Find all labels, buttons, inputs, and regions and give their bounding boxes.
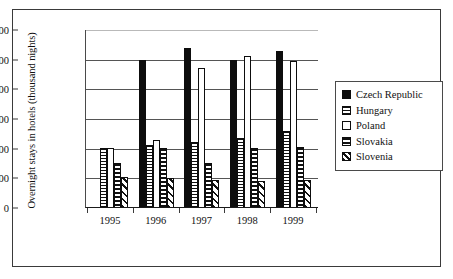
bar-group [179,30,225,207]
solid-black-swatch [342,90,351,99]
bar-group [225,30,271,207]
bar [198,68,205,207]
bar [244,56,251,207]
bar [212,180,219,207]
x-axis-label: 1995 [87,215,133,226]
y-axis-tickmark [13,208,18,209]
bar [290,61,297,207]
bar [251,148,258,207]
legend-item: Slovenia [342,149,437,165]
y-axis-tick-label: 12,000 [0,25,13,36]
bar-group [134,30,180,207]
x-axis-label: 1997 [179,215,225,226]
y-axis-tick: 12,000 [0,25,13,36]
bar [107,148,114,207]
bar [121,177,128,207]
bar [283,131,290,207]
bar [160,148,167,207]
legend-item-label: Slovakia [356,136,393,147]
bar-group [270,30,316,207]
y-axis-tick: 6000 [0,114,13,125]
legend-item-label: Poland [356,120,385,131]
bar [258,181,265,207]
legend-item: Czech Republic [342,87,437,103]
bar [167,178,174,207]
horizontal-lines-swatch [342,137,351,146]
bar [114,163,121,207]
bar [139,60,146,207]
bar [297,147,304,207]
x-axis-label: 1999 [270,215,316,226]
y-axis-tick-label: 10,000 [0,54,13,65]
bar [184,48,191,207]
y-axis-tick-label: 2000 [0,173,13,184]
y-axis-tickmark [13,30,18,31]
chart-legend: Czech RepublicHungaryPolandSlovakiaSlove… [335,81,443,171]
y-axis-tick: 4000 [0,143,13,154]
x-axis-label: 1998 [224,215,270,226]
x-axis-tickmark [133,208,134,213]
plot-area [85,30,318,208]
y-axis-tick-label: 0 [4,203,13,214]
x-axis-tickmark [179,208,180,213]
diagonal-lines-swatch [342,152,351,161]
legend-item-label: Slovenia [356,151,393,162]
legend-item-label: Hungary [356,105,393,116]
y-axis-tick: 8000 [0,84,13,95]
bar [276,51,283,207]
y-axis-tick: 0 [4,203,13,214]
bar-groups [86,30,318,207]
y-axis-tickmark [13,148,18,149]
bar [205,163,212,207]
bar-group [88,30,134,207]
legend-item: Hungary [342,103,437,119]
x-axis-tickmark [87,208,88,213]
y-axis-tick: 2000 [0,173,13,184]
bar [146,145,153,207]
x-axis-labels: 19951996199719981999 [85,215,318,226]
legend-item: Slovakia [342,134,437,150]
bar [304,180,311,207]
bar [230,60,237,207]
x-axis-label: 1996 [133,215,179,226]
x-axis-tickmark [224,208,225,213]
chart-frame: Overnight stays in hotels (thousand nigh… [12,9,441,267]
legend-item-label: Czech Republic [356,89,423,100]
y-axis-tick-labels: 0200040006000800010,00012,000 [13,10,85,209]
y-axis-tick-label: 6000 [0,114,13,125]
y-axis-tickmark [13,178,18,179]
empty-white-swatch [342,121,351,130]
x-axis-tickmark [270,208,271,213]
x-axis-tickmarks [85,208,318,213]
y-axis-tick-label: 8000 [0,84,13,95]
bar [100,148,107,207]
dotted-vertical-swatch [342,106,351,115]
x-axis-tickmark [316,208,317,213]
bar [191,142,198,207]
legend-item: Poland [342,118,437,134]
bar [237,138,244,207]
bar [153,140,160,207]
y-axis-tick: 10,000 [0,54,13,65]
y-axis-tickmark [13,89,18,90]
y-axis-tick-label: 4000 [0,143,13,154]
y-axis-tickmark [13,59,18,60]
y-axis-tickmark [13,119,18,120]
